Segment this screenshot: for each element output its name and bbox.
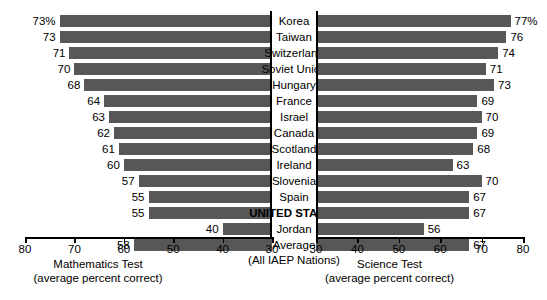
science-bar <box>316 223 424 235</box>
science-axis-title-line1: Science Test <box>274 258 505 272</box>
science-axis-title-line2: (average percent correct) <box>274 272 505 286</box>
science-bar <box>316 15 511 27</box>
mathematics-value-label: 68 <box>67 77 80 93</box>
axis-tick-label: 40 <box>351 242 364 256</box>
science-bar-row: 73 <box>316 77 547 93</box>
axis-tick-label: 80 <box>517 242 530 256</box>
science-bar-rows: 77%7674717369706968637067675667 <box>316 13 547 253</box>
axis-tick-label: 70 <box>68 242 81 256</box>
axis-tick-label: 50 <box>392 242 405 256</box>
mathematics-value-label: 73 <box>43 29 56 45</box>
science-value-label: 67 <box>473 205 486 221</box>
science-bar-row: 70 <box>316 109 547 125</box>
mathematics-value-label: 63 <box>92 109 105 125</box>
science-bar-row: 77% <box>316 13 547 29</box>
axis-tick-label: 60 <box>117 242 130 256</box>
science-bar <box>316 127 477 139</box>
science-bar <box>316 47 498 59</box>
science-value-label: 70 <box>486 173 499 189</box>
science-value-label: 77% <box>515 13 538 29</box>
science-value-label: 70 <box>486 109 499 125</box>
science-value-label: 56 <box>428 221 441 237</box>
science-bar-row: 67 <box>316 205 547 221</box>
science-bar <box>316 191 469 203</box>
science-value-label: 63 <box>457 157 470 173</box>
science-bar-row: 69 <box>316 125 547 141</box>
mathematics-value-label: 73% <box>33 13 56 29</box>
axis-tick-label: 70 <box>475 242 488 256</box>
science-value-label: 67 <box>473 189 486 205</box>
dual-bar-chart: 73%7371706864636261605755554058 80706050… <box>0 0 547 300</box>
mathematics-value-label: 57 <box>122 173 135 189</box>
mathematics-value-label: 55 <box>132 205 145 221</box>
science-bar <box>316 95 477 107</box>
science-bar <box>316 175 482 187</box>
axis-tick-label: 80 <box>19 242 32 256</box>
science-axis-title: Science Test (average percent correct) <box>274 258 505 285</box>
science-bar-row: 63 <box>316 157 547 173</box>
science-panel: 77%7674717369706968637067675667 30405060… <box>316 0 547 300</box>
mathematics-value-label: 71 <box>53 45 66 61</box>
science-bar-row: 71 <box>316 61 547 77</box>
science-value-label: 73 <box>498 77 511 93</box>
science-bar <box>316 143 473 155</box>
axis-tick-label: 30 <box>310 242 323 256</box>
science-value-label: 68 <box>477 141 490 157</box>
mathematics-value-label: 62 <box>97 125 110 141</box>
axis-tick-label: 60 <box>434 242 447 256</box>
science-bar-row: 67 <box>316 189 547 205</box>
science-bar <box>316 159 453 171</box>
science-bar-row: 56 <box>316 221 547 237</box>
science-category-axis <box>316 237 523 239</box>
mathematics-axis-title-line2: (average percent correct) <box>0 272 234 286</box>
science-value-axis <box>316 11 318 237</box>
science-bar-row: 74 <box>316 45 547 61</box>
science-value-label: 74 <box>502 45 515 61</box>
mathematics-value-label: 55 <box>132 189 145 205</box>
science-bar <box>316 111 482 123</box>
mathematics-value-label: 70 <box>58 61 71 77</box>
science-value-label: 76 <box>510 29 523 45</box>
science-bar-row: 68 <box>316 141 547 157</box>
science-value-label: 69 <box>481 125 494 141</box>
mathematics-value-label: 60 <box>107 157 120 173</box>
science-bar <box>316 207 469 219</box>
mathematics-value-label: 61 <box>102 141 115 157</box>
science-value-label: 71 <box>490 61 503 77</box>
science-bar <box>316 63 486 75</box>
science-bar-row: 76 <box>316 29 547 45</box>
science-bar <box>316 79 494 91</box>
science-value-label: 69 <box>481 93 494 109</box>
mathematics-value-label: 64 <box>87 93 100 109</box>
science-bar <box>316 31 506 43</box>
science-bar-row: 70 <box>316 173 547 189</box>
science-bar-row: 69 <box>316 93 547 109</box>
